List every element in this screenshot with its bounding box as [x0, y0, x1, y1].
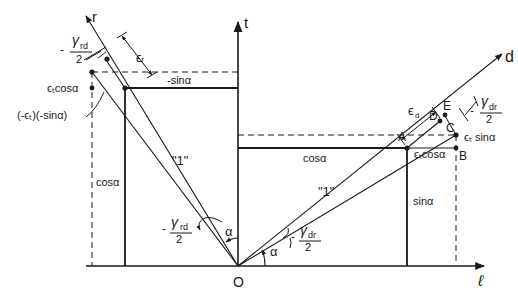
left-alpha-label: α [225, 224, 233, 239]
alpha-arc-right [262, 250, 265, 266]
right-rect [238, 148, 407, 266]
point-B-label: B [459, 149, 467, 163]
gamma-dr-top-num: γ [481, 93, 489, 109]
gamma-rd-low-den: 2 [176, 233, 182, 245]
point-left-deformed [89, 69, 94, 74]
gamma-dr-low-sub: dr [308, 230, 316, 240]
point-B [454, 146, 459, 151]
point-D-label: D [429, 109, 438, 123]
point-left-ext [90, 86, 95, 91]
gamma-rd-top-den: 2 [76, 53, 82, 65]
gamma-dr-low-sign: - [291, 230, 295, 244]
gamma-rd-top-sub: rd [80, 41, 88, 51]
gamma-dr-top-den: 2 [486, 113, 492, 125]
point-C-label: C [446, 121, 455, 135]
eps-d-label: ϵ [408, 104, 413, 118]
left-unit-label: "1" [172, 153, 189, 168]
gamma-dr-low-den: 2 [305, 241, 311, 253]
gamma-rd-arc [199, 218, 222, 231]
point-A-label: A [398, 130, 406, 144]
axis-l-label: ℓ [477, 272, 484, 289]
gamma-rd-low-num: γ [171, 214, 179, 230]
right-side-label: sinα [413, 195, 434, 207]
eps-d-sub: d [415, 111, 419, 120]
strain-diagram: t r d ℓ O -sinα cosα ϵₜcosα (-ϵₜ)(-sinα)… [0, 0, 518, 302]
r-deformed-line [92, 72, 238, 266]
point-A [404, 145, 409, 150]
left-shift-label: (-ϵₜ)(-sinα) [17, 109, 67, 121]
gamma-dr-top-sub: dr [489, 102, 497, 112]
gamma-rd-low-sub: rd [180, 222, 188, 232]
point-left-r [104, 56, 109, 61]
axis-r-label: r [92, 8, 97, 25]
axis-t-label: t [244, 14, 249, 31]
gamma-rd-low-sign: - [162, 222, 166, 236]
right-ext-cos-label: ϵₜcosα [414, 148, 446, 160]
right-unit-label: "1" [318, 184, 335, 199]
origin-label: O [233, 274, 244, 290]
point-E-label: E [443, 99, 451, 113]
right-alpha-label: α [270, 244, 278, 259]
left-top-label: -sinα [167, 74, 192, 86]
point-D [438, 119, 443, 124]
gamma-rd-top-sign: - [60, 43, 64, 57]
point-E [443, 113, 448, 118]
shift-leader [86, 92, 104, 117]
gamma-dr-top-sign: - [470, 104, 474, 118]
gamma-rd-top-num: γ [72, 32, 80, 48]
eps-r-label: ϵᵣ [136, 51, 144, 65]
right-ext-sin-label: ϵₜ sinα [464, 131, 496, 143]
left-side-label: cosα [96, 176, 120, 188]
right-top-label: cosα [303, 152, 327, 164]
gamma-dr-low-num: γ [300, 222, 308, 238]
left-ext-label: ϵₜcosα [47, 82, 79, 94]
axis-d-label: d [505, 48, 514, 65]
point-left-corner [122, 85, 127, 90]
